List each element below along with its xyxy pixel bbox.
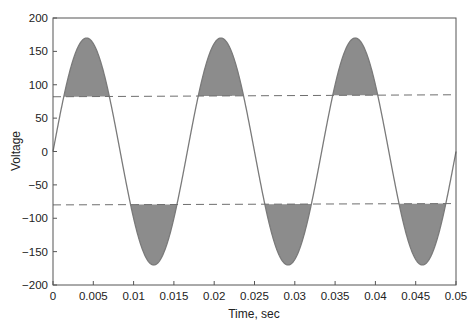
x-tick-label: 0.01 [122,290,144,302]
chart: 00.0050.010.0150.020.0250.030.0350.040.0… [0,0,476,326]
x-tick-label: 0.025 [240,290,269,302]
y-axis-label: Voltage [9,131,23,171]
y-tick-label: −50 [28,179,48,191]
x-axis-label: Time, sec [228,307,280,321]
x-tick-label: 0.04 [364,290,387,302]
x-tick-label: 0 [50,290,56,302]
x-tick-label: 0.05 [445,290,467,302]
y-tick-label: 50 [35,112,48,124]
y-tick-label: 150 [29,45,48,57]
y-tick-label: −200 [22,279,48,291]
y-tick-label: 0 [42,146,48,158]
voltage-line [53,38,456,265]
y-tick-label: 100 [29,79,48,91]
y-axis: 200150100500−50−100−150−200 [22,12,57,291]
y-tick-label: −100 [22,212,48,224]
x-tick-label: 0.03 [284,290,306,302]
x-tick-label: 0.015 [160,290,189,302]
y-tick-label: 200 [29,12,48,24]
y-tick-label: −150 [22,246,48,258]
x-tick-label: 0.005 [79,290,108,302]
threshold-dashed-line [53,95,456,97]
x-tick-label: 0.045 [401,290,430,302]
x-tick-label: 0.035 [321,290,350,302]
threshold-dashed-line [53,204,456,205]
voltage-curve [53,38,456,265]
x-tick-label: 0.02 [203,290,225,302]
x-axis: 00.0050.010.0150.020.0250.030.0350.040.0… [50,281,467,302]
